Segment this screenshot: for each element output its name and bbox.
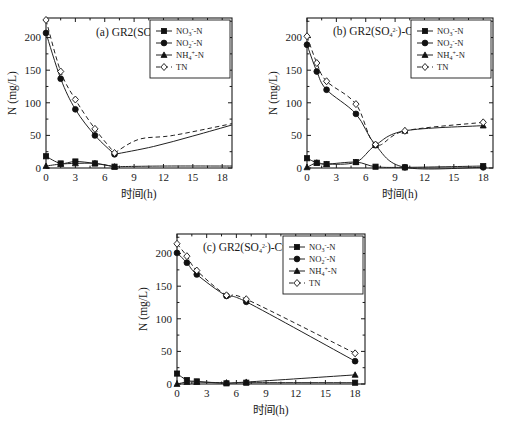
x-tick-label: 3 xyxy=(73,171,79,183)
data-point-tn xyxy=(72,96,78,103)
y-tick-label: 0 xyxy=(297,162,303,174)
data-point-no2-n xyxy=(72,106,78,112)
y-tick-label: 100 xyxy=(156,313,173,325)
x-tick-label: 0 xyxy=(304,171,310,183)
data-point-no2-n xyxy=(352,358,358,364)
x-axis-title: 时间(h) xyxy=(253,404,289,417)
series-line-no2-n xyxy=(46,33,115,154)
y-tick-label: 200 xyxy=(25,31,42,43)
x-tick-label: 15 xyxy=(320,387,332,399)
chart-panel-b: 0501001502000369121518时间(h)N (mg/L)(b) G… xyxy=(261,0,523,216)
data-point-no2-n xyxy=(58,76,64,82)
x-tick-label: 12 xyxy=(290,387,301,399)
legend-marker-no3 xyxy=(294,244,299,249)
data-point-tn xyxy=(480,119,486,126)
data-point-no3-n xyxy=(43,154,48,159)
x-tick-label: 12 xyxy=(419,171,430,183)
data-point-no3-n xyxy=(174,371,179,376)
data-point-no2-n xyxy=(43,30,49,36)
y-tick-label: 50 xyxy=(291,129,303,141)
y-axis-title: N (mg/L) xyxy=(267,71,280,115)
series-line-nh4-n xyxy=(307,126,483,168)
data-point-no3-n xyxy=(304,156,309,161)
x-tick-label: 6 xyxy=(234,387,240,399)
data-point-no2-n xyxy=(402,164,408,170)
trend-curve-dashed xyxy=(115,124,232,153)
chart-panel-c: 0501001502000369121518时间(h)N (mg/L)(c) G… xyxy=(129,214,395,432)
data-point-no3-n xyxy=(373,164,378,169)
legend-marker-no3 xyxy=(161,28,166,33)
x-tick-label: 18 xyxy=(350,387,362,399)
x-tick-label: 15 xyxy=(448,171,460,183)
x-tick-label: 6 xyxy=(363,171,369,183)
x-tick-label: 18 xyxy=(217,171,229,183)
trend-curve-solid xyxy=(115,125,232,154)
y-tick-label: 100 xyxy=(286,97,303,109)
data-point-no2-n xyxy=(480,164,486,170)
y-tick-label: 200 xyxy=(286,31,303,43)
series-line-tn xyxy=(46,20,115,153)
data-point-no2-n xyxy=(314,69,320,75)
y-tick-label: 0 xyxy=(167,378,173,390)
legend-marker-no2 xyxy=(161,40,167,46)
data-point-nh4-n xyxy=(304,164,310,170)
x-tick-label: 3 xyxy=(334,171,340,183)
y-tick-label: 50 xyxy=(30,129,42,141)
panel-title: (b) GR2(SO42-)-Cu xyxy=(333,25,419,38)
trend-curve-baseline xyxy=(115,166,232,167)
y-tick-label: 0 xyxy=(36,162,42,174)
x-tick-label: 9 xyxy=(131,171,137,183)
legend-label-tn: TN xyxy=(176,62,188,72)
data-point-tn xyxy=(304,33,310,40)
x-tick-label: 0 xyxy=(43,171,49,183)
x-tick-label: 9 xyxy=(392,171,398,183)
legend-marker-no3 xyxy=(422,28,427,33)
x-tick-label: 18 xyxy=(478,171,490,183)
data-point-no2-n xyxy=(304,42,310,48)
data-point-no2-n xyxy=(174,250,180,256)
figure-root: 0501001502000369121518时间(h)N (mg/L)(a) G… xyxy=(0,0,523,432)
x-tick-label: 3 xyxy=(204,387,210,399)
data-point-no2-n xyxy=(184,260,190,266)
y-tick-label: 100 xyxy=(25,97,42,109)
x-tick-label: 15 xyxy=(187,171,199,183)
legend-label-tn: TN xyxy=(309,278,321,288)
data-point-no2-n xyxy=(353,111,359,117)
y-axis-title: N (mg/L) xyxy=(6,71,19,115)
x-tick-label: 9 xyxy=(263,387,269,399)
legend-label-tn: TN xyxy=(437,62,449,72)
data-point-tn xyxy=(184,253,190,260)
legend-marker-no2 xyxy=(294,256,300,262)
chart-panel-a: 0501001502000369121518时间(h)N (mg/L)(a) G… xyxy=(0,0,262,216)
x-tick-label: 6 xyxy=(102,171,108,183)
x-tick-label: 12 xyxy=(158,171,169,183)
x-tick-label: 0 xyxy=(174,387,180,399)
y-tick-label: 200 xyxy=(156,247,173,259)
legend-marker-no2 xyxy=(422,40,428,46)
x-axis-title: 时间(h) xyxy=(121,188,157,201)
y-tick-label: 150 xyxy=(156,280,173,292)
data-point-no2-n xyxy=(324,87,330,93)
y-axis-title: N (mg/L) xyxy=(137,287,150,331)
y-tick-label: 150 xyxy=(286,64,303,76)
x-axis-title: 时间(h) xyxy=(382,188,418,201)
data-point-no2-n xyxy=(92,132,98,138)
y-tick-label: 150 xyxy=(25,64,42,76)
y-tick-label: 50 xyxy=(161,345,173,357)
data-point-tn xyxy=(352,350,358,357)
data-point-no3-n xyxy=(353,380,358,385)
